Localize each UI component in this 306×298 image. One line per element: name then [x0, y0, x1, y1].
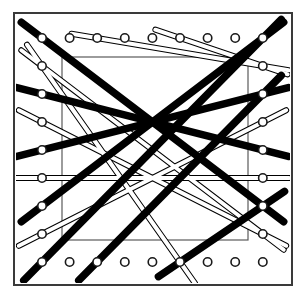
peg	[93, 258, 101, 266]
peg-ring-icon	[38, 174, 46, 182]
peg-ring-icon	[176, 258, 184, 266]
peg	[38, 174, 46, 182]
peg-ring-icon	[121, 258, 129, 266]
peg-ring-icon	[259, 202, 267, 210]
peg	[259, 258, 267, 266]
peg	[148, 34, 156, 42]
peg	[38, 202, 46, 210]
peg-ring-icon	[93, 34, 101, 42]
peg	[38, 146, 46, 154]
peg	[259, 146, 267, 154]
peg	[176, 258, 184, 266]
peg	[38, 34, 46, 42]
peg	[38, 230, 46, 238]
peg	[65, 258, 73, 266]
peg-ring-icon	[259, 90, 267, 98]
peg-ring-icon	[38, 230, 46, 238]
peg	[38, 118, 46, 126]
peg-ring-icon	[38, 258, 46, 266]
peg	[259, 174, 267, 182]
peg	[203, 34, 211, 42]
peg-ring-icon	[176, 34, 184, 42]
peg-ring-icon	[93, 258, 101, 266]
peg-ring-icon	[38, 202, 46, 210]
peg	[231, 258, 239, 266]
peg-ring-icon	[38, 34, 46, 42]
peg-ring-icon	[148, 258, 156, 266]
peg	[121, 258, 129, 266]
peg-ring-icon	[203, 258, 211, 266]
peg	[38, 62, 46, 70]
peg	[148, 258, 156, 266]
peg-ring-icon	[65, 258, 73, 266]
peg-ring-icon	[38, 146, 46, 154]
peg	[259, 90, 267, 98]
peg	[38, 90, 46, 98]
peg-ring-icon	[231, 258, 239, 266]
peg-ring-icon	[203, 34, 211, 42]
peg-ring-icon	[259, 146, 267, 154]
peg-ring-icon	[148, 34, 156, 42]
peg-ring-icon	[259, 174, 267, 182]
peg	[176, 34, 184, 42]
peg	[259, 118, 267, 126]
peg-ring-icon	[65, 34, 73, 42]
peg	[93, 34, 101, 42]
peg-ring-icon	[259, 258, 267, 266]
peg	[259, 202, 267, 210]
peg-ring-icon	[259, 118, 267, 126]
peg-ring-icon	[121, 34, 129, 42]
peg	[65, 34, 73, 42]
peg-ring-icon	[38, 118, 46, 126]
peg-ring-icon	[259, 62, 267, 70]
peg-ring-icon	[231, 34, 239, 42]
figure-root	[0, 0, 306, 298]
peg	[203, 258, 211, 266]
peg	[121, 34, 129, 42]
winding-diagram	[0, 0, 306, 298]
peg	[259, 34, 267, 42]
peg	[38, 258, 46, 266]
peg-ring-icon	[259, 230, 267, 238]
peg	[259, 62, 267, 70]
peg-ring-icon	[38, 90, 46, 98]
peg-ring-icon	[259, 34, 267, 42]
peg	[231, 34, 239, 42]
peg-ring-icon	[38, 62, 46, 70]
peg	[259, 230, 267, 238]
